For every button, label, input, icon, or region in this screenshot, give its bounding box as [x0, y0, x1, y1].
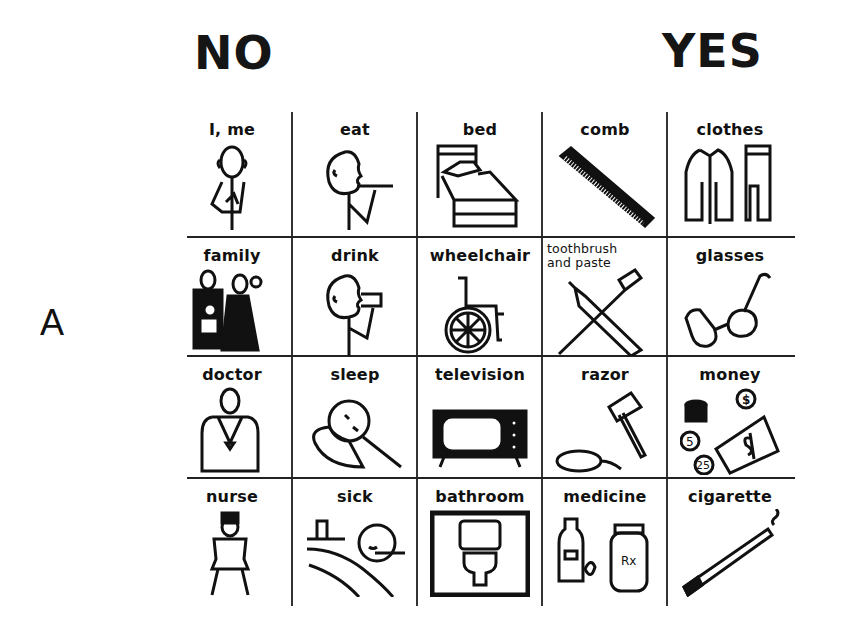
cell-label: bed [418, 120, 542, 139]
board-cell-eat[interactable]: eat [293, 112, 417, 232]
clothes-icon [680, 142, 780, 230]
cell-label: clothes [668, 120, 792, 139]
communication-board: I, me eat bed comb clothes family [170, 112, 792, 606]
board-cell-sleep[interactable]: sleep [293, 357, 417, 477]
board-cell-money[interactable]: money $ 5 25 [668, 357, 792, 477]
board-cell-medicine[interactable]: medicine Rx [543, 479, 667, 599]
cell-label: toothbrushand paste [547, 242, 667, 270]
cell-label: I, me [170, 120, 294, 139]
board-cell-clothes[interactable]: clothes [668, 112, 792, 232]
board-cell-family[interactable]: family [170, 238, 294, 358]
sleeping-person-icon [305, 387, 405, 475]
cell-label: nurse [170, 487, 294, 506]
cell-label: sleep [293, 365, 417, 384]
board-cell-glasses[interactable]: glasses [668, 238, 792, 358]
board-cell-i-me[interactable]: I, me [170, 112, 294, 232]
svg-text:5: 5 [686, 435, 694, 449]
television-icon [430, 387, 530, 475]
cell-label: medicine [543, 487, 667, 506]
razor-icon [555, 387, 655, 475]
nurse-icon [182, 509, 282, 597]
person-pointing-self-icon [182, 142, 282, 230]
board-cell-nurse[interactable]: nurse [170, 479, 294, 599]
cell-label: family [170, 246, 294, 265]
board-cell-cigarette[interactable]: cigarette [668, 479, 792, 599]
cell-label: razor [543, 365, 667, 384]
sick-person-icon [305, 509, 405, 597]
board-cell-television[interactable]: television [418, 357, 542, 477]
medicine-icon: Rx [555, 509, 655, 597]
money-icon: $ 5 25 [680, 387, 780, 475]
board-cell-drink[interactable]: drink [293, 238, 417, 358]
svg-text:$: $ [742, 393, 750, 407]
panel-label: A [40, 302, 64, 344]
cell-label: wheelchair [418, 246, 542, 265]
cell-label: television [418, 365, 542, 384]
glasses-icon [680, 268, 780, 356]
board-cell-doctor[interactable]: doctor [170, 357, 294, 477]
toothbrush-paste-icon [555, 268, 655, 356]
cell-label: bathroom [418, 487, 542, 506]
cell-label: cigarette [668, 487, 792, 506]
cell-label: eat [293, 120, 417, 139]
cell-label: doctor [170, 365, 294, 384]
cell-label: comb [543, 120, 667, 139]
person-drinking-icon [305, 268, 405, 356]
board-cell-bed[interactable]: bed [418, 112, 542, 232]
svg-text:25: 25 [696, 459, 710, 472]
cell-label: drink [293, 246, 417, 265]
cell-label: sick [293, 487, 417, 506]
yes-heading: YES [662, 24, 763, 78]
board-cell-razor[interactable]: razor [543, 357, 667, 477]
cigarette-icon [680, 509, 780, 597]
family-icon [182, 268, 282, 356]
board-cell-comb[interactable]: comb [543, 112, 667, 232]
person-eating-icon [305, 142, 405, 230]
no-heading: NO [194, 26, 274, 80]
bed-icon [430, 142, 530, 230]
doctor-icon [182, 387, 282, 475]
toilet-icon [430, 509, 530, 597]
board-cell-sick[interactable]: sick [293, 479, 417, 599]
cell-label: glasses [668, 246, 792, 265]
comb-icon [555, 142, 655, 230]
wheelchair-icon [430, 268, 530, 356]
svg-text:Rx: Rx [621, 554, 636, 568]
board-cell-wheelchair[interactable]: wheelchair [418, 238, 542, 358]
board-cell-toothbrush-and-paste[interactable]: toothbrushand paste [543, 238, 667, 358]
board-cell-bathroom[interactable]: bathroom [418, 479, 542, 599]
cell-label: money [668, 365, 792, 384]
